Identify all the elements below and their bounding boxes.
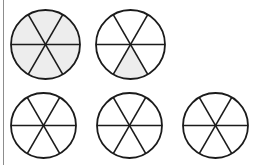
circle-1[interactable] xyxy=(8,7,83,82)
circle-5[interactable] xyxy=(180,90,251,161)
circle-3[interactable] xyxy=(8,90,79,161)
circle-4[interactable] xyxy=(94,90,165,161)
left-margin-rule xyxy=(3,0,4,165)
circle-2[interactable] xyxy=(93,7,168,82)
worksheet-canvas xyxy=(0,0,254,165)
